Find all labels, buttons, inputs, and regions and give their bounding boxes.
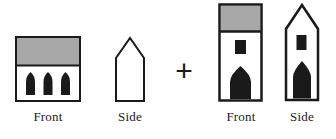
- plus-operator: +: [170, 56, 198, 84]
- tower-front-roof-band: [221, 6, 260, 31]
- label-tower-front: Front: [213, 110, 269, 123]
- nave-front-svg: [15, 36, 81, 102]
- label-nave-front: Front: [15, 110, 81, 123]
- figure-nave-front: [15, 36, 81, 102]
- tower-front-svg: [218, 3, 263, 102]
- diagram-canvas: Front Side + Front Side: [0, 0, 336, 139]
- tower-side-svg: [283, 3, 321, 102]
- tower-front-window: [235, 40, 246, 54]
- tower-side-window: [297, 35, 307, 50]
- label-tower-side: Side: [280, 110, 324, 123]
- figure-nave-side: [114, 36, 146, 102]
- figure-tower-front: [218, 3, 263, 102]
- nave-side-outline: [116, 38, 144, 101]
- nave-front-roof-band: [17, 38, 79, 65]
- nave-side-svg: [114, 36, 146, 102]
- figure-tower-side: [283, 3, 321, 102]
- label-nave-side: Side: [110, 110, 150, 123]
